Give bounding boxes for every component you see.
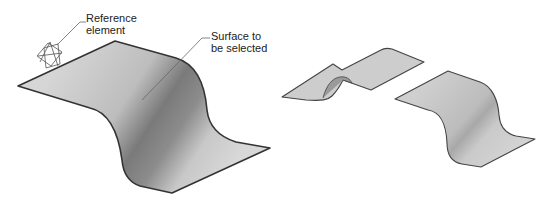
result-surface-2[interactable] — [395, 71, 535, 167]
reference-element-label: Reference element — [86, 12, 137, 36]
reference-leader-line — [57, 22, 86, 45]
main-surface[interactable] — [18, 41, 270, 193]
result-surface-1[interactable] — [282, 48, 424, 100]
reference-element-icon — [37, 42, 62, 68]
diagram-canvas: Reference element Surface to be selected — [0, 0, 553, 204]
surface-to-select-label: Surface to be selected — [211, 30, 267, 54]
